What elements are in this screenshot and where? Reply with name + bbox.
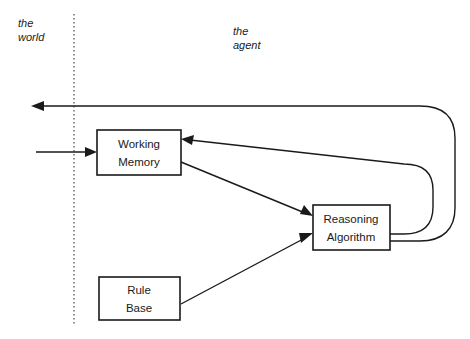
region-label-agent-line2: agent: [233, 39, 261, 51]
region-label-agent-line1: the: [233, 25, 248, 37]
agent-architecture-diagram: the world the agent Working Memory Reaso…: [0, 0, 470, 339]
rule-base-label-line1: Rule: [127, 284, 151, 296]
box-reasoning-algorithm: Reasoning Algorithm: [313, 205, 390, 250]
connection-reasoning-to-working-memory: [190, 140, 433, 234]
reasoning-algorithm-label-line2: Algorithm: [327, 231, 376, 243]
working-memory-label-line1: Working: [118, 138, 160, 150]
connection-working-memory-to-reasoning: [181, 162, 305, 213]
connection-rule-base-to-reasoning: [181, 238, 305, 304]
region-label-world-line1: the: [18, 17, 33, 29]
arrowhead-into-working-memory-input: [85, 147, 97, 157]
arrowhead-to-world: [31, 101, 44, 111]
rule-base-label-line2: Base: [126, 302, 152, 314]
arrowhead-into-reasoning-from-working-memory: [300, 205, 313, 216]
box-working-memory: Working Memory: [97, 130, 181, 175]
arrowhead-into-working-memory-feedback: [181, 135, 194, 145]
diagram-canvas: the world the agent Working Memory Reaso…: [0, 0, 470, 339]
reasoning-algorithm-box-outline: [313, 205, 390, 250]
box-rule-base: Rule Base: [99, 277, 180, 320]
working-memory-box-outline: [97, 130, 181, 175]
reasoning-algorithm-label-line1: Reasoning: [324, 213, 379, 225]
working-memory-label-line2: Memory: [118, 156, 160, 168]
arrowhead-into-reasoning-from-rule-base: [299, 233, 313, 243]
region-label-world-line2: world: [18, 31, 45, 43]
